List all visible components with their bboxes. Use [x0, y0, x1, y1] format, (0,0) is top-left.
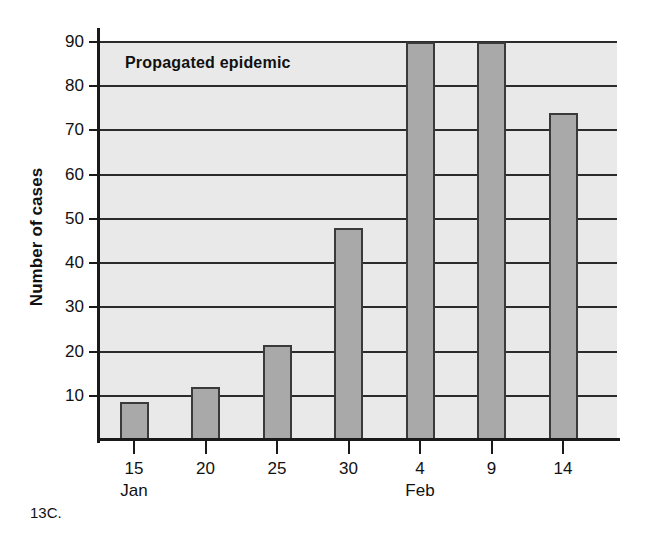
x-tick-label: 25: [247, 460, 307, 478]
x-tick-label: 20: [176, 460, 236, 478]
y-tick-mark: [89, 218, 98, 220]
y-tick-mark: [89, 395, 98, 397]
y-tick-label: 90: [44, 33, 84, 50]
bar: [406, 42, 435, 440]
y-tick-label: 10: [44, 387, 84, 404]
y-tick-label: 20: [44, 343, 84, 360]
x-month-label: Jan: [99, 482, 169, 500]
y-tick-mark: [89, 85, 98, 87]
bar: [263, 345, 292, 440]
y-tick-mark: [89, 129, 98, 131]
gridline: [100, 129, 617, 131]
x-tick-mark: [133, 441, 135, 454]
x-tick-label: 15: [104, 460, 164, 478]
y-tick-mark: [89, 306, 98, 308]
x-tick-mark: [491, 441, 493, 454]
y-tick-label: 80: [44, 77, 84, 94]
x-tick-label: 4: [390, 460, 450, 478]
y-tick-label: 30: [44, 298, 84, 315]
x-tick-mark: [348, 441, 350, 454]
x-tick-label: 9: [462, 460, 522, 478]
x-axis-line: [97, 438, 620, 441]
bar: [477, 42, 506, 440]
x-tick-mark: [419, 441, 421, 454]
bar: [549, 113, 578, 440]
y-tick-label: 50: [44, 210, 84, 227]
y-tick-mark: [89, 351, 98, 353]
gridline: [100, 174, 617, 176]
bar: [191, 387, 220, 440]
x-tick-label: 30: [319, 460, 379, 478]
chart-title: Propagated epidemic: [125, 54, 291, 72]
x-tick-label: 14: [533, 460, 593, 478]
y-tick-mark: [89, 41, 98, 43]
gridline: [100, 218, 617, 220]
gridline: [100, 85, 617, 87]
y-axis-line: [97, 28, 100, 443]
x-tick-mark: [562, 441, 564, 454]
y-tick-mark: [89, 262, 98, 264]
y-tick-label: 60: [44, 166, 84, 183]
plot-area: Propagated epidemic: [100, 42, 617, 440]
y-tick-mark: [89, 174, 98, 176]
figure-caption: 13C.: [30, 505, 62, 521]
x-tick-mark: [276, 441, 278, 454]
bar: [120, 402, 149, 440]
x-tick-mark: [205, 441, 207, 454]
y-tick-label: 70: [44, 121, 84, 138]
bar: [334, 228, 363, 440]
y-tick-label: 40: [44, 254, 84, 271]
gridline: [100, 41, 617, 43]
x-month-label: Feb: [385, 482, 455, 500]
figure-propagated-epidemic: Number of cases Propagated epidemic 1020…: [0, 0, 646, 540]
